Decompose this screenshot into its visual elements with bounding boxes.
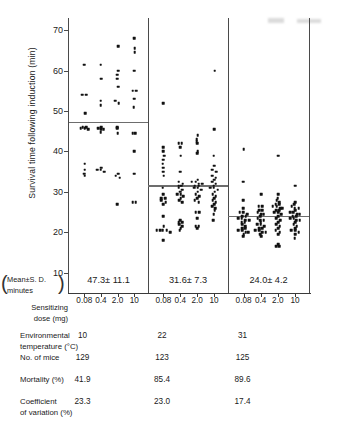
data-point <box>133 98 136 101</box>
data-point <box>196 227 199 230</box>
data-point <box>212 187 215 190</box>
data-point <box>211 180 214 183</box>
panel-divider-2 <box>228 18 229 293</box>
stats-row-label: No. of mice <box>20 352 84 363</box>
data-point <box>201 183 204 186</box>
data-point <box>292 211 295 214</box>
x-tick-label-10: 10 <box>210 297 219 305</box>
data-point <box>294 229 297 232</box>
data-point <box>81 94 84 97</box>
data-point <box>83 168 86 171</box>
data-point <box>160 199 163 202</box>
y-tick-mark <box>64 192 68 193</box>
survival-time-scatter-figure: Survival time following induction (min) … <box>0 0 341 433</box>
y-axis-line <box>68 18 69 293</box>
data-point <box>275 205 278 208</box>
data-point <box>260 235 263 238</box>
stats-row: No. of mice129123125 <box>6 352 336 374</box>
data-point <box>182 195 185 198</box>
data-point <box>103 128 106 131</box>
data-point <box>194 211 197 214</box>
data-point <box>162 166 165 169</box>
data-point <box>162 203 165 206</box>
data-point <box>262 219 265 222</box>
data-point <box>297 231 300 234</box>
data-point <box>244 227 247 230</box>
y-tick-mark <box>64 30 68 31</box>
x-tick-label-0.08: 0.08 <box>236 297 252 305</box>
plot-area: 70605040302010 <box>68 18 309 293</box>
y-tick-mark <box>64 151 68 152</box>
data-point <box>96 168 99 171</box>
data-point <box>133 47 136 50</box>
mean-caption: Mean±S. D. minutes <box>7 275 63 296</box>
y-tick-label: 60 <box>53 66 63 75</box>
data-point <box>244 215 247 218</box>
y-tick-label: 40 <box>53 147 63 156</box>
data-point <box>275 223 278 226</box>
data-point <box>166 229 169 232</box>
data-point <box>265 231 268 234</box>
x-tick-label-2.0: 2.0 <box>191 297 202 305</box>
data-point <box>133 69 136 72</box>
stats-cell: 41.9 <box>75 374 91 386</box>
data-point <box>247 231 250 234</box>
x-axis-label-line2: dose (mg) <box>6 314 68 325</box>
data-point <box>278 245 281 248</box>
data-point <box>162 215 165 218</box>
stats-cell: 23.0 <box>154 396 170 408</box>
data-point <box>213 213 216 216</box>
x-tick-label-0.4: 0.4 <box>95 297 106 305</box>
data-point <box>213 209 216 212</box>
data-point <box>116 77 119 80</box>
data-point <box>181 201 184 204</box>
data-point <box>256 211 259 214</box>
data-point <box>179 170 182 173</box>
data-point <box>99 100 102 103</box>
stats-row: Coefficientof variation (%)23.323.017.4 <box>6 396 336 418</box>
data-point <box>100 131 103 134</box>
data-point <box>180 154 183 157</box>
data-point <box>298 213 301 216</box>
data-point <box>179 229 182 232</box>
data-point <box>134 132 137 135</box>
data-point <box>162 146 165 149</box>
data-point <box>162 239 165 242</box>
data-point <box>248 219 251 222</box>
data-point <box>194 193 197 196</box>
y-axis-label: Survival time following induction (min) <box>27 13 37 233</box>
data-point <box>242 148 245 151</box>
data-point <box>242 207 245 210</box>
data-point <box>180 142 183 145</box>
stats-cell: 10 <box>78 330 87 342</box>
data-point <box>238 211 241 214</box>
data-point <box>290 229 293 232</box>
stats-cell: 17.4 <box>235 396 251 408</box>
data-point <box>132 106 135 109</box>
data-point <box>213 128 216 131</box>
data-point <box>299 219 302 222</box>
data-point <box>177 187 180 190</box>
data-point <box>162 187 165 190</box>
data-point <box>162 174 165 177</box>
stats-cell: 123 <box>155 352 169 364</box>
data-point <box>79 127 82 130</box>
data-point <box>256 223 259 226</box>
data-point <box>83 63 86 66</box>
data-point <box>259 215 262 218</box>
data-point <box>260 193 263 196</box>
stats-row-label: Environmentaltemperature (°C) <box>20 330 84 352</box>
data-point <box>116 73 119 76</box>
data-point <box>215 170 218 173</box>
data-point <box>241 229 244 232</box>
panel-divider-3 <box>309 18 310 293</box>
data-point <box>117 85 120 88</box>
data-point <box>134 201 137 204</box>
data-point <box>280 213 283 216</box>
data-point <box>84 112 87 115</box>
data-point <box>277 193 280 196</box>
stats-cell: 23.3 <box>75 396 91 408</box>
data-point <box>133 37 136 40</box>
x-axis-ticks: 0.080.42.0100.080.42.0100.080.42.010 <box>68 293 311 303</box>
data-point <box>133 51 136 54</box>
